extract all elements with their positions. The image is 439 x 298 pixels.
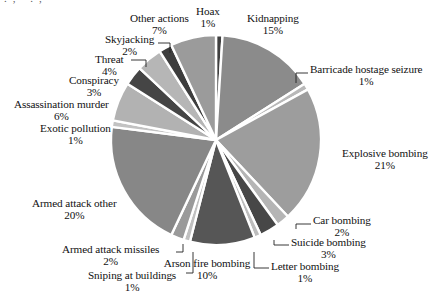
pie-slice-label-percent: 6% xyxy=(14,111,109,123)
pie-slice-label: Hoax1% xyxy=(196,6,220,29)
leader-line xyxy=(176,244,183,252)
pie-slice-label: Other actions7% xyxy=(130,13,189,36)
pie-slice-label: Threat4% xyxy=(95,54,124,77)
pie-slice-label-percent: 2% xyxy=(62,256,159,268)
pie-slice-label-name: Exotic pollution xyxy=(40,123,111,135)
pie-slice-label: Letter bombing1% xyxy=(271,261,339,284)
pie-slice-label-percent: 7% xyxy=(130,25,189,37)
pie-slice-label: Sniping at buildings1% xyxy=(88,270,176,293)
pie-slice-label: Conspiracy3% xyxy=(69,75,119,98)
pie-slice-label-percent: 3% xyxy=(69,87,119,99)
pie-slice-label-percent: 15% xyxy=(247,25,299,37)
pie-slices xyxy=(111,35,321,245)
pie-slice-label: Kidnapping15% xyxy=(247,13,299,36)
pie-slice-label: Exotic pollution1% xyxy=(40,123,111,146)
pie-chart-figure: ., ., Hoax1%Kidnapping15%Barricade hosta… xyxy=(0,0,439,298)
pie-slice-label-name: Hoax xyxy=(196,6,220,18)
pie-slice-label-percent: 2% xyxy=(105,46,154,58)
pie-slice-label: Assassination murder6% xyxy=(14,99,109,122)
pie-slice-label: Armed attack missiles2% xyxy=(62,244,159,267)
pie-slice-label: Explosive bombing21% xyxy=(342,148,428,171)
pie-slice-label-percent: 1% xyxy=(88,282,176,294)
pie-slice-label-percent: 20% xyxy=(32,210,117,222)
pie-slice-label: Skyjacking2% xyxy=(105,34,154,57)
pie-slice-label-name: Letter bombing xyxy=(271,261,339,273)
leader-line xyxy=(254,252,269,268)
pie-slice-label-name: Suicide bombing xyxy=(291,237,366,249)
pie-slice-label-name: Assassination murder xyxy=(14,99,109,111)
pie-slice-label-name: Barricade hostage seizure xyxy=(310,64,422,76)
pie-slice-label-name: Armed attack other xyxy=(32,198,117,210)
pie-slice-label-percent: 1% xyxy=(196,18,220,30)
pie-slice-label: Suicide bombing3% xyxy=(291,237,366,260)
pie-slice-label-name: Car bombing xyxy=(313,215,371,227)
pie-slice-label: Barricade hostage seizure1% xyxy=(310,64,422,87)
pie-slice-label-name: Sniping at buildings xyxy=(88,270,176,282)
pie-slice-label-percent: 1% xyxy=(271,273,339,285)
pie-slice-label-percent: 4% xyxy=(95,66,124,78)
pie-slice-label-name: Other actions xyxy=(130,13,189,25)
pie-slice-label: Car bombing2% xyxy=(313,215,371,238)
pie-slice-label-name: Kidnapping xyxy=(247,13,299,25)
pie-slice-label-name: Armed attack missiles xyxy=(62,244,159,256)
pie-slice-label-percent: 21% xyxy=(342,160,428,172)
pie-slice-label-name: Arson fire bombing xyxy=(162,258,252,270)
leader-line xyxy=(296,224,311,229)
pie-slice-label-percent: 1% xyxy=(40,135,111,147)
leader-line xyxy=(274,240,289,245)
pie-slice-label-percent: 1% xyxy=(310,76,422,88)
pie-slice-label-percent: 3% xyxy=(291,249,366,261)
pie-slice-label-name: Explosive bombing xyxy=(342,148,428,160)
pie-slice-label: Armed attack other20% xyxy=(32,198,117,221)
